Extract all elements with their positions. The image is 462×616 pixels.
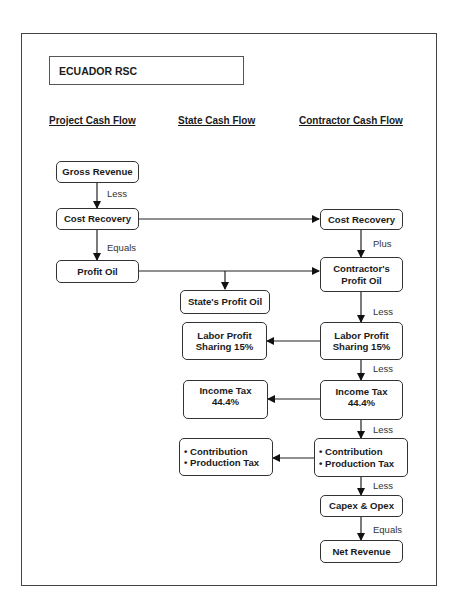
box-label-line1: Labor Profit bbox=[321, 330, 402, 341]
box-label-line1: Income Tax bbox=[184, 385, 267, 396]
label-less: Less bbox=[373, 424, 393, 435]
box-profit-oil: Profit Oil bbox=[56, 260, 139, 283]
box-contractor-profit-oil: Contractor's Profit Oil bbox=[320, 257, 403, 292]
box-label-line2: 44.4% bbox=[321, 397, 402, 408]
box-label: State's Profit Oil bbox=[181, 296, 269, 307]
box-label: Cost Recovery bbox=[321, 214, 402, 225]
label-less: Less bbox=[373, 306, 393, 317]
box-label-line2: Profit Oil bbox=[321, 275, 402, 286]
box-label: Gross Revenue bbox=[57, 166, 138, 177]
box-label-line1: Contractor's bbox=[321, 263, 402, 274]
label-less: Less bbox=[373, 480, 393, 491]
box-label: Profit Oil bbox=[57, 266, 138, 277]
box-label-line2: Sharing 15% bbox=[183, 341, 266, 352]
label-less: Less bbox=[373, 363, 393, 374]
box-label-line2: Sharing 15% bbox=[321, 341, 402, 352]
box-label-line2: • Production Tax bbox=[184, 457, 272, 468]
box-gross-revenue: Gross Revenue bbox=[56, 161, 139, 183]
box-label-line1: Labor Profit bbox=[183, 330, 266, 341]
box-label-line1: Income Tax bbox=[321, 386, 402, 397]
label-plus: Plus bbox=[373, 238, 391, 249]
box-label: Net Revenue bbox=[321, 546, 402, 557]
box-label: Cost Recovery bbox=[57, 213, 138, 224]
box-contractor-contribution-production-tax: • Contribution • Production Tax bbox=[314, 438, 408, 477]
box-label-line2: 44.4% bbox=[184, 396, 267, 407]
box-state-contribution-production-tax: • Contribution • Production Tax bbox=[179, 438, 273, 476]
box-cost-recovery: Cost Recovery bbox=[56, 208, 139, 230]
box-state-income-tax: Income Tax 44.4% bbox=[183, 380, 268, 419]
box-state-labor-profit-sharing: Labor Profit Sharing 15% bbox=[182, 322, 267, 360]
label-less: Less bbox=[107, 188, 127, 199]
box-label-line1: • Contribution bbox=[319, 446, 407, 457]
box-net-revenue: Net Revenue bbox=[320, 540, 403, 563]
box-label: Capex & Opex bbox=[321, 500, 402, 511]
label-equals: Equals bbox=[107, 242, 136, 253]
box-contractor-labor-profit-sharing: Labor Profit Sharing 15% bbox=[320, 322, 403, 360]
label-equals: Equals bbox=[373, 524, 402, 535]
box-capex-opex: Capex & Opex bbox=[320, 495, 403, 517]
box-label-line2: • Production Tax bbox=[319, 458, 407, 469]
box-contractor-cost-recovery: Cost Recovery bbox=[320, 209, 403, 230]
box-state-profit-oil: State's Profit Oil bbox=[180, 290, 270, 314]
box-label-line1: • Contribution bbox=[184, 446, 272, 457]
box-contractor-income-tax: Income Tax 44.4% bbox=[320, 380, 403, 420]
